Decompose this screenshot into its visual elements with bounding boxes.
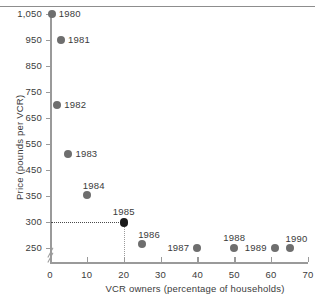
x-tick-label: 20 (110, 269, 138, 280)
guide-line-vertical (124, 222, 125, 262)
y-tick-mark (46, 118, 51, 119)
data-point-marker[interactable] (271, 244, 279, 252)
data-point-marker[interactable] (57, 36, 65, 44)
x-tick-mark (197, 257, 198, 262)
data-point-label: 1984 (83, 180, 105, 191)
x-tick-label: 40 (183, 269, 211, 280)
y-axis-line (50, 12, 52, 262)
data-point-label: 1983 (75, 148, 97, 159)
y-tick-mark (46, 92, 51, 93)
y-tick-label: 300 (0, 216, 42, 227)
data-point-label: 1988 (223, 232, 245, 243)
data-point-label: 1980 (59, 8, 81, 19)
x-axis-line (50, 262, 308, 264)
data-point-marker[interactable] (83, 191, 91, 199)
y-tick-label: 950 (0, 34, 42, 45)
x-tick-mark (308, 257, 309, 262)
data-point-label: 1986 (138, 229, 160, 240)
data-point-marker[interactable] (286, 244, 294, 252)
y-tick-label: 250 (0, 242, 42, 253)
data-point-marker[interactable] (120, 218, 129, 227)
data-point-label: 1982 (64, 99, 86, 110)
data-point-marker[interactable] (193, 244, 201, 252)
data-point-label: 1987 (167, 242, 189, 253)
x-tick-mark (87, 257, 88, 262)
scatter-plot: Price (pounds per VCR) VCR owners (perce… (0, 0, 315, 300)
data-point-marker[interactable] (53, 101, 61, 109)
x-tick-label: 30 (147, 269, 175, 280)
y-tick-mark (46, 196, 51, 197)
data-point-label: 1985 (113, 206, 135, 217)
data-point-label: 1989 (245, 242, 267, 253)
y-tick-label: 550 (0, 138, 42, 149)
y-tick-label: 650 (0, 112, 42, 123)
data-point-marker[interactable] (64, 150, 72, 158)
y-tick-label: 850 (0, 60, 42, 71)
x-tick-label: 70 (294, 269, 315, 280)
y-tick-mark (46, 66, 51, 67)
x-tick-label: 0 (36, 269, 64, 280)
y-tick-mark (46, 144, 51, 145)
y-tick-mark (46, 40, 51, 41)
x-tick-label: 50 (220, 269, 248, 280)
data-point-marker[interactable] (230, 244, 238, 252)
data-point-marker[interactable] (138, 240, 146, 248)
y-tick-label: 750 (0, 86, 42, 97)
x-axis-title: VCR owners (percentage of households) (95, 283, 295, 294)
y-tick-label: 1,050 (0, 8, 42, 19)
data-point-label: 1981 (68, 34, 90, 45)
x-tick-mark (161, 257, 162, 262)
data-point-marker[interactable] (48, 10, 56, 18)
x-tick-label: 60 (257, 269, 285, 280)
data-point-label: 1990 (286, 233, 308, 244)
guide-line-horizontal (51, 222, 125, 223)
y-tick-label: 450 (0, 164, 42, 175)
x-tick-mark (234, 257, 235, 262)
y-tick-label: 350 (0, 190, 42, 201)
x-tick-label: 10 (73, 269, 101, 280)
y-tick-mark (46, 170, 51, 171)
x-tick-mark (271, 257, 272, 262)
